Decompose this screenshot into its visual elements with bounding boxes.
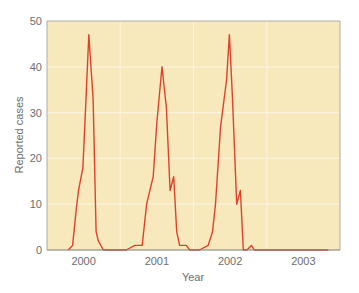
line-chart: 01020304050 2000200120022003 Year Report… bbox=[0, 0, 359, 293]
y-tick-label: 20 bbox=[30, 152, 42, 164]
y-tick-label: 50 bbox=[30, 15, 42, 27]
y-tick-label: 30 bbox=[30, 107, 42, 119]
y-tick-label: 40 bbox=[30, 61, 42, 73]
y-tick-label: 10 bbox=[30, 198, 42, 210]
x-tick-label: 2000 bbox=[71, 255, 95, 267]
y-axis-label: Reported cases bbox=[13, 96, 25, 174]
y-tick-label: 0 bbox=[36, 244, 42, 256]
x-axis-label: Year bbox=[182, 271, 205, 283]
x-tick-label: 2001 bbox=[145, 255, 169, 267]
x-tick-label: 2003 bbox=[291, 255, 315, 267]
y-axis-ticks: 01020304050 bbox=[30, 15, 42, 256]
x-axis-ticks: 2000200120022003 bbox=[71, 255, 315, 267]
x-tick-label: 2002 bbox=[218, 255, 242, 267]
